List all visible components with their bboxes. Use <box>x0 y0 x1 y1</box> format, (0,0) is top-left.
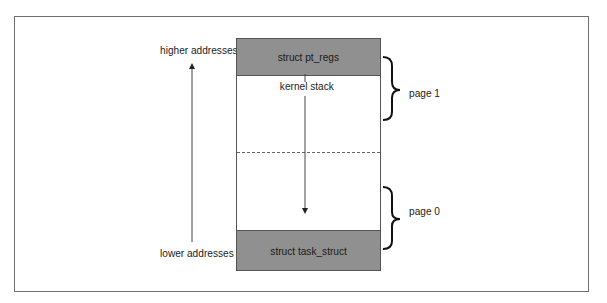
lower-addresses-label: lower addresses <box>160 247 234 259</box>
page-divider <box>237 152 380 153</box>
page-0-label: page 0 <box>409 205 440 217</box>
higher-addresses-label: higher addresses <box>160 44 238 56</box>
kernel-stack-block: struct pt_regs struct task_struct <box>236 38 381 271</box>
task-struct-region: struct task_struct <box>237 230 380 270</box>
kernel-stack-label: kernel stack <box>278 80 336 92</box>
page-1-label: page 1 <box>409 87 440 99</box>
pt-regs-region: struct pt_regs <box>237 39 380 76</box>
pt-regs-label: struct pt_regs <box>278 51 339 63</box>
task-struct-label: struct task_struct <box>270 245 346 257</box>
